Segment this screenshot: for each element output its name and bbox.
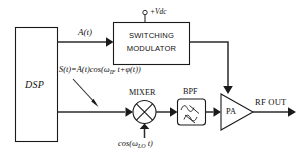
lo-signal-subscript: LO: [138, 143, 146, 149]
pa-label: PA: [226, 108, 236, 116]
phase-signal-suffix: t+φ(t)): [115, 65, 140, 74]
arrow-into-mixer: [126, 107, 134, 117]
diagram-canvas: [0, 0, 301, 157]
arrow-rf-out: [288, 107, 296, 117]
switching-modulator-label-line2: MODULATOR: [117, 45, 186, 53]
phase-signal-prefix: S(t)=A(t)cos(ω: [59, 65, 110, 74]
supply-voltage-label: +Vdc: [150, 8, 166, 15]
mixer-label: MIXER: [129, 89, 155, 97]
arrow-into-pa: [214, 107, 222, 117]
switching-modulator-label-line1: SWITCHING: [117, 32, 186, 40]
rf-output-label: RF OUT: [255, 98, 287, 107]
wire-modulator-to-pa-supply: [190, 42, 229, 86]
lo-signal-suffix: t): [146, 139, 153, 148]
phase-signal-label: S(t)=A(t)cos(ωIF t+φ(t)): [59, 66, 141, 74]
arrow-into-modulator: [106, 37, 114, 47]
lo-signal-prefix: cos(ω: [118, 139, 138, 148]
block-diagram-figure: DSP SWITCHING MODULATOR +Vdc A(t) S(t)=A…: [0, 0, 301, 157]
amplitude-signal-label: A(t): [78, 28, 92, 37]
bpf-block-shape: [178, 99, 206, 125]
arrow-into-bpf: [170, 107, 178, 117]
dsp-block-label: DSP: [25, 80, 44, 90]
phase-signal-subscript: IF: [110, 69, 116, 75]
arrow-into-mixer-lo: [140, 124, 150, 130]
arrow-into-pa-top: [223, 86, 233, 94]
lo-signal-label: cos(ωLO t): [118, 140, 153, 148]
supply-terminal-circle: [143, 10, 147, 14]
bpf-label: BPF: [183, 88, 198, 96]
mixer-cross-shape: [136, 104, 152, 120]
